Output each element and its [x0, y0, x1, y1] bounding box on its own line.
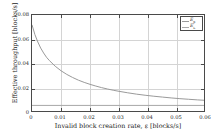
x-tick-label-4: 0.04	[141, 114, 153, 120]
legend-label-sub-1: L	[193, 26, 195, 30]
y-tick-label-0.02: 0.02	[17, 85, 29, 91]
y-tick-label-0.04: 0.04	[17, 60, 29, 66]
x-tick-label-5: 0.05	[170, 114, 182, 120]
y-tick-label-0: 0	[26, 109, 29, 115]
x-tick-label-2: 0.02	[83, 114, 95, 120]
legend-label-1: EL	[190, 23, 195, 31]
x-axis-label: Invalid block creation rate, ε [blocks/s…	[31, 122, 205, 130]
y-tick-label-0.08: 0.08	[17, 11, 29, 17]
y-tick-label-0.06: 0.06	[17, 36, 29, 42]
legend[interactable]: Ep EL	[180, 16, 203, 31]
x-tick-label-1: 0.01	[54, 114, 66, 120]
x-tick-labels: 0 0.01 0.02 0.03 0.04 0.05 0.06	[31, 114, 205, 122]
x-tick-label-3: 0.03	[112, 114, 124, 120]
legend-swatch-icon-0	[182, 21, 189, 22]
chart-figure: 0 0.01 0.02 0.03 0.04 0.05 0.06 0.08 0.0…	[0, 0, 215, 139]
x-tick-label-6: 0.06	[199, 114, 211, 120]
plot-area	[31, 14, 205, 112]
series-line-E_p	[32, 25, 205, 101]
x-tick-label-0: 0	[29, 114, 32, 120]
y-axis-label: Effective throughput [blocks/s]	[11, 0, 19, 109]
legend-swatch-icon-1	[182, 27, 189, 28]
legend-item-1[interactable]: EL	[182, 24, 201, 30]
